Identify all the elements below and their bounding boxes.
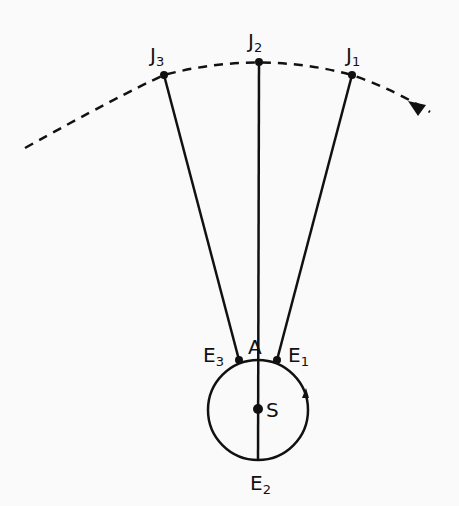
j1-label: J1 — [344, 43, 360, 69]
sight-line-e1-j1 — [277, 75, 352, 360]
arrow-left-icon — [408, 101, 426, 116]
jupiter-orbit-path — [25, 63, 430, 149]
sun-dot — [253, 404, 263, 414]
j2-dot — [255, 58, 263, 66]
j1-dot — [348, 71, 356, 79]
sun-label: S — [266, 398, 279, 422]
j2-label: J2 — [246, 29, 262, 55]
e2-label: E2 — [250, 471, 271, 497]
sight-line-e3-j3 — [164, 75, 239, 360]
e3-label: E3 — [203, 343, 224, 369]
j3-dot — [160, 71, 168, 79]
e1-label: E1 — [288, 343, 309, 369]
e1-dot — [273, 356, 281, 364]
retrograde-diagram: J3 J2 J1 E3 E1 E2 A S — [0, 0, 459, 506]
sight-line-e2-j2 — [258, 62, 259, 460]
e3-dot — [235, 356, 243, 364]
j3-label: J3 — [148, 43, 164, 69]
a-label: A — [248, 335, 262, 359]
